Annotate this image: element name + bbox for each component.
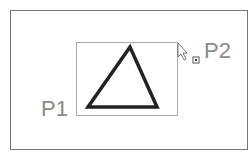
p2-label: P2 xyxy=(204,40,231,62)
snap-point-icon xyxy=(0,0,252,158)
p1-label: P1 xyxy=(41,98,68,120)
